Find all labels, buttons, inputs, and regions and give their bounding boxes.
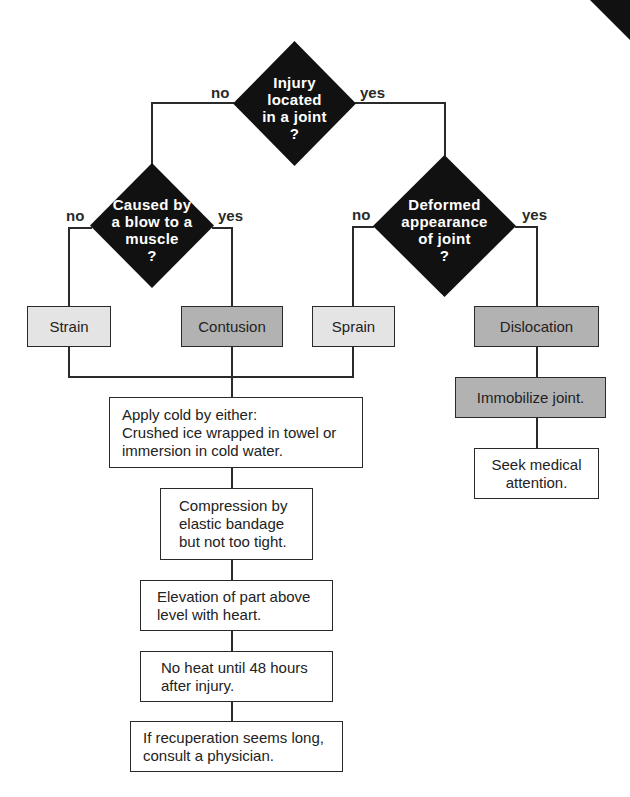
outcome-label: Sprain <box>332 318 375 336</box>
decision-text-line: located <box>267 91 322 108</box>
decision-injury-in-joint: Injury located in a joint ? <box>233 41 356 166</box>
connector <box>151 102 153 164</box>
branch-label-yes: yes <box>522 206 547 223</box>
connector <box>231 345 233 398</box>
connector <box>355 102 446 104</box>
outcome-dislocation: Dislocation <box>474 306 599 347</box>
decision-text-line: ? <box>440 247 449 264</box>
connector <box>515 226 538 228</box>
decision-text-line: Injury <box>273 74 316 91</box>
branch-label-yes: yes <box>360 84 385 101</box>
connector <box>68 227 92 229</box>
outcome-strain: Strain <box>27 306 111 347</box>
connector <box>231 700 233 722</box>
page-corner-mark <box>590 0 630 40</box>
connector <box>536 345 538 378</box>
connector <box>68 376 354 378</box>
step-consult-physician: If recuperation seems long, consult a ph… <box>130 721 343 772</box>
step-text: If recuperation seems long, consult a ph… <box>143 729 324 765</box>
step-compression: Compression by elastic bandage but not t… <box>160 488 313 560</box>
step-text: Seek medical attention. <box>491 456 581 492</box>
connector <box>212 227 233 229</box>
decision-text-line: muscle <box>125 230 179 247</box>
injury-flowchart: Injury located in a joint ? no yes Cause… <box>0 0 630 797</box>
decision-text-line: Caused by <box>113 196 192 213</box>
connector <box>352 226 374 228</box>
decision-text-line: appearance <box>401 213 487 230</box>
outcome-label: Strain <box>49 318 88 336</box>
connector <box>231 466 233 489</box>
branch-label-no: no <box>211 84 229 101</box>
step-text: No heat until 48 hours after injury. <box>161 659 308 695</box>
step-no-heat: No heat until 48 hours after injury. <box>140 651 333 702</box>
step-text: Elevation of part above level with heart… <box>157 588 310 624</box>
connector <box>68 227 70 307</box>
outcome-sprain: Sprain <box>312 306 395 347</box>
decision-text-line: a blow to a <box>112 213 193 230</box>
step-text: Compression by elastic bandage but not t… <box>179 497 287 551</box>
step-immobilize: Immobilize joint. <box>455 377 606 418</box>
outcome-label: Dislocation <box>500 318 573 336</box>
decision-text-line: of joint <box>418 230 470 247</box>
branch-label-no: no <box>352 206 370 223</box>
connector <box>536 416 538 449</box>
connector <box>68 345 70 377</box>
decision-text-line: in a joint <box>262 108 327 125</box>
outcome-label: Contusion <box>198 318 266 336</box>
connector <box>352 226 354 307</box>
connector <box>444 102 446 156</box>
decision-text-line: Deformed <box>408 196 480 213</box>
connector <box>231 227 233 307</box>
connector <box>352 345 354 377</box>
connector <box>231 558 233 581</box>
step-text: Immobilize joint. <box>477 389 585 407</box>
outcome-contusion: Contusion <box>181 306 283 347</box>
decision-text-line: ? <box>147 247 156 264</box>
connector <box>151 102 234 104</box>
decision-caused-by-blow: Caused by a blow to a muscle ? <box>90 163 214 288</box>
step-seek-medical: Seek medical attention. <box>474 448 599 499</box>
step-apply-cold: Apply cold by either: Crushed ice wrappe… <box>109 397 363 468</box>
decision-text-line: ? <box>290 125 299 142</box>
step-text: Apply cold by either: Crushed ice wrappe… <box>122 406 336 460</box>
connector <box>231 630 233 652</box>
step-elevation: Elevation of part above level with heart… <box>140 580 333 631</box>
branch-label-no: no <box>66 207 84 224</box>
branch-label-yes: yes <box>218 207 243 224</box>
decision-deformed-joint: Deformed appearance of joint ? <box>373 155 516 297</box>
connector <box>536 226 538 307</box>
